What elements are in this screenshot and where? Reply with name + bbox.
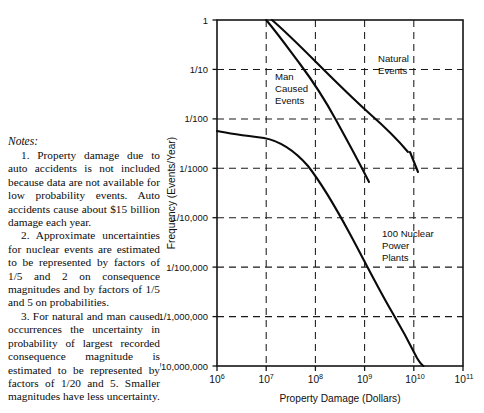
- ytick-label-6: 1/1,000,000: [160, 311, 208, 322]
- notes-heading: Notes:: [8, 134, 160, 148]
- annotation-man-caused-line-1: Caused: [275, 83, 308, 94]
- xtick-mantissa-4: 10: [405, 374, 417, 385]
- annotation-natural-line-1: Events: [378, 65, 408, 76]
- xtick-mantissa-5: 10: [455, 374, 467, 385]
- ytick-label-3: 1/1000: [179, 163, 208, 174]
- risk-chart: 1 1/10 1/100 1/1000 1/10,000 1/100,000 1…: [160, 0, 484, 413]
- ytick-label-2: 1/100: [185, 113, 208, 124]
- annotation-nuclear-line-2: Plants: [382, 252, 409, 263]
- xtick-exponent-1: 7: [270, 372, 274, 381]
- xtick-mantissa-1: 10: [259, 374, 271, 385]
- annotation-man-caused-line-2: Events: [275, 95, 305, 106]
- chart-canvas: 1 1/10 1/100 1/1000 1/10,000 1/100,000 1…: [160, 0, 484, 413]
- xtick-label-1: 107: [259, 372, 274, 385]
- xtick-mantissa-0: 10: [209, 374, 221, 385]
- xtick-label-5: 1011: [455, 372, 474, 385]
- xtick-label-0: 106: [209, 372, 224, 385]
- annotation-nuclear-power-plants: 100 Nuclear Power Plants: [382, 228, 435, 263]
- annotation-nuclear-line-1: Power: [382, 240, 410, 251]
- note-item-1: 1. Property damage due to auto accidents…: [8, 149, 160, 229]
- xtick-label-2: 108: [308, 372, 323, 385]
- x-tick-labels: 106 107 108 109 1010 1011: [209, 372, 473, 385]
- xtick-exponent-2: 8: [319, 372, 323, 381]
- annotation-natural-line-0: Natural: [378, 53, 409, 64]
- note-item-2: 2. Approximate uncertainties for nuclear…: [8, 229, 160, 309]
- ytick-label-5: 1/100,000: [166, 262, 208, 273]
- annotation-man-caused-events: Man Caused Events: [275, 71, 308, 106]
- xtick-label-4: 1010: [405, 372, 424, 385]
- xtick-exponent-3: 9: [368, 372, 372, 381]
- xtick-exponent-5: 11: [466, 372, 473, 381]
- notes-block: Notes: 1. Property damage due to auto ac…: [8, 134, 160, 404]
- figure-page: Notes: 1. Property damage due to auto ac…: [0, 0, 484, 413]
- xtick-mantissa-2: 10: [308, 374, 320, 385]
- ytick-label-7: 1/10,000,000: [160, 361, 208, 372]
- horizontal-gridlines: [217, 69, 463, 316]
- annotation-nuclear-line-0: 100 Nuclear: [382, 228, 435, 239]
- xtick-exponent-4: 10: [417, 372, 425, 381]
- annotation-natural-events: Natural Events: [378, 53, 409, 76]
- ytick-label-1: 1/10: [190, 64, 208, 75]
- xtick-mantissa-3: 10: [357, 374, 369, 385]
- xtick-exponent-0: 6: [221, 372, 225, 381]
- plot-frame: [217, 20, 463, 366]
- y-axis-title: Frequency (Events/Year): [166, 137, 177, 249]
- annotation-man-caused-line-0: Man: [275, 71, 294, 82]
- x-axis-title: Property Damage (Dollars): [279, 393, 400, 404]
- note-item-3: 3. For natural and man caused occurrence…: [8, 310, 160, 404]
- ytick-label-0: 1: [203, 15, 208, 26]
- xtick-label-3: 109: [357, 372, 372, 385]
